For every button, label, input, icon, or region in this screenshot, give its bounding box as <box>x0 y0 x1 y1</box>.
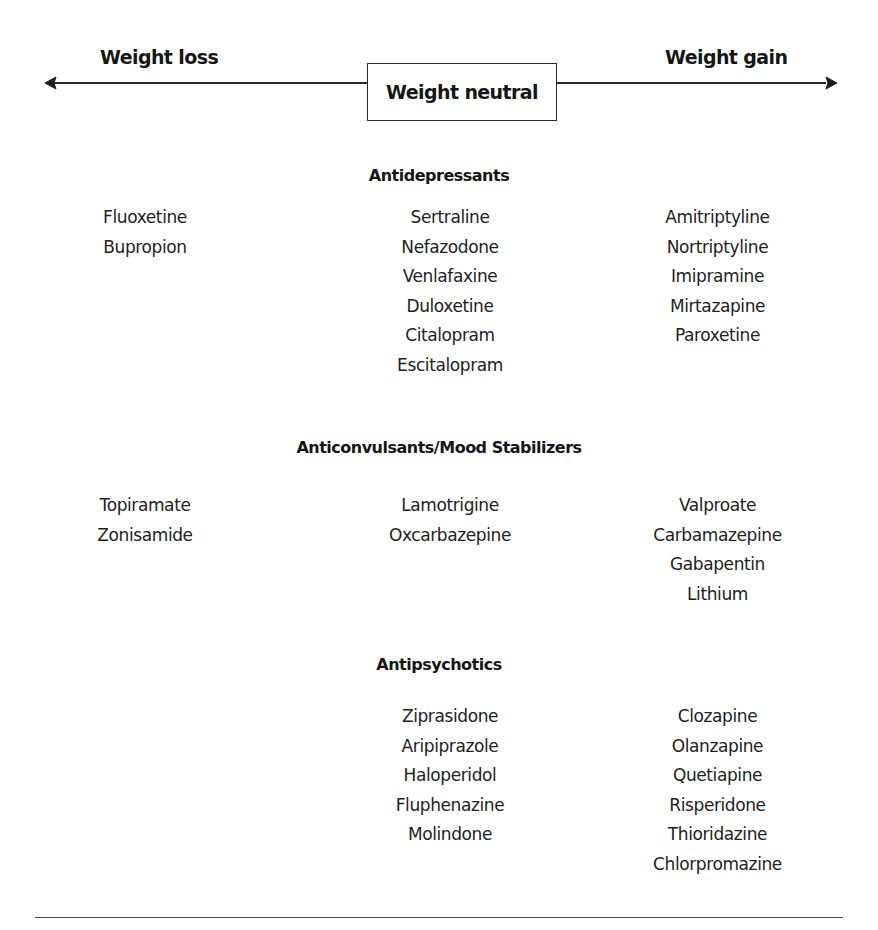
drug-item: Imipramine <box>630 262 805 292</box>
section-title-anticonvulsants: Anticonvulsants/Mood Stabilizers <box>0 438 878 457</box>
drug-item: Sertraline <box>360 203 540 233</box>
drug-item: Fluphenazine <box>360 791 540 821</box>
antidepressants-weight-neutral-list: Sertraline Nefazodone Venlafaxine Duloxe… <box>360 203 540 380</box>
drug-item: Molindone <box>360 820 540 850</box>
weight-neutral-box: Weight neutral <box>367 63 557 121</box>
antidepressants-weight-loss-list: Fluoxetine Bupropion <box>60 203 230 262</box>
drug-item: Zonisamide <box>60 521 230 551</box>
drug-item: Risperidone <box>630 791 805 821</box>
drug-item: Lamotrigine <box>360 491 540 521</box>
drug-item: Duloxetine <box>360 292 540 322</box>
drug-item: Aripiprazole <box>360 732 540 762</box>
drug-item: Venlafaxine <box>360 262 540 292</box>
anticonvulsants-weight-gain-list: Valproate Carbamazepine Gabapentin Lithi… <box>630 491 805 609</box>
arrow-left-icon <box>45 77 56 89</box>
bottom-divider <box>35 917 843 918</box>
drug-item: Fluoxetine <box>60 203 230 233</box>
drug-item: Lithium <box>630 580 805 610</box>
anticonvulsants-weight-loss-list: Topiramate Zonisamide <box>60 491 230 550</box>
antipsychotics-weight-gain-list: Clozapine Olanzapine Quetiapine Risperid… <box>630 702 805 879</box>
antipsychotics-weight-neutral-list: Ziprasidone Aripiprazole Haloperidol Flu… <box>360 702 540 850</box>
drug-item: Nortriptyline <box>630 233 805 263</box>
drug-item: Bupropion <box>60 233 230 263</box>
drug-item: Chlorpromazine <box>630 850 805 880</box>
drug-item: Carbamazepine <box>630 521 805 551</box>
drug-item: Citalopram <box>360 321 540 351</box>
drug-item: Thioridazine <box>630 820 805 850</box>
drug-item: Valproate <box>630 491 805 521</box>
weight-loss-label: Weight loss <box>100 46 218 68</box>
arrow-right-icon <box>826 77 837 89</box>
section-title-antidepressants: Antidepressants <box>0 166 878 185</box>
drug-item: Haloperidol <box>360 761 540 791</box>
drug-item: Amitriptyline <box>630 203 805 233</box>
antidepressants-weight-gain-list: Amitriptyline Nortriptyline Imipramine M… <box>630 203 805 351</box>
weight-gain-label: Weight gain <box>665 46 787 68</box>
drug-item: Oxcarbazepine <box>360 521 540 551</box>
anticonvulsants-weight-neutral-list: Lamotrigine Oxcarbazepine <box>360 491 540 550</box>
drug-item: Quetiapine <box>630 761 805 791</box>
drug-item: Gabapentin <box>630 550 805 580</box>
drug-item: Escitalopram <box>360 351 540 381</box>
drug-item: Clozapine <box>630 702 805 732</box>
section-title-antipsychotics: Antipsychotics <box>0 655 878 674</box>
drug-item: Mirtazapine <box>630 292 805 322</box>
drug-item: Nefazodone <box>360 233 540 263</box>
drug-item: Topiramate <box>60 491 230 521</box>
drug-item: Ziprasidone <box>360 702 540 732</box>
drug-item: Olanzapine <box>630 732 805 762</box>
weight-neutral-label: Weight neutral <box>386 81 538 103</box>
drug-item: Paroxetine <box>630 321 805 351</box>
